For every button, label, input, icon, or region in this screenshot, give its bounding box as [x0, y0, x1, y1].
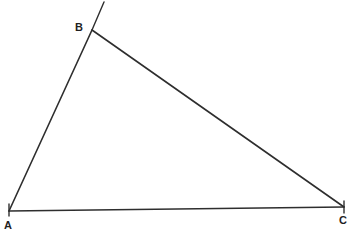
- segment-bc: [92, 30, 344, 207]
- segment-ab: [9, 30, 92, 211]
- triangle-diagram-svg: [0, 0, 352, 237]
- vertex-label-c: C: [339, 215, 347, 226]
- vertex-label-b: B: [75, 22, 83, 33]
- segment-ac: [9, 207, 344, 211]
- ray-ab-extension: [92, 2, 104, 30]
- vertex-label-a: A: [4, 220, 12, 231]
- geometry-figure-canvas: A B C: [0, 0, 352, 237]
